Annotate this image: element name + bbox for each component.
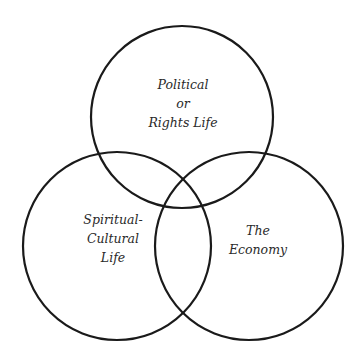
label-line: Economy — [229, 240, 287, 259]
label-political: Political or Rights Life — [148, 75, 217, 132]
label-economy: The Economy — [229, 221, 287, 259]
label-line: Life — [83, 248, 142, 267]
venn-diagram — [0, 0, 362, 360]
label-line: or — [148, 94, 217, 113]
label-line: Spiritual- — [83, 210, 142, 229]
label-line: The — [229, 221, 287, 240]
label-line: Cultural — [83, 229, 142, 248]
label-line: Rights Life — [148, 113, 217, 132]
label-line: Political — [148, 75, 217, 94]
label-spiritual-cultural: Spiritual- Cultural Life — [83, 210, 142, 267]
